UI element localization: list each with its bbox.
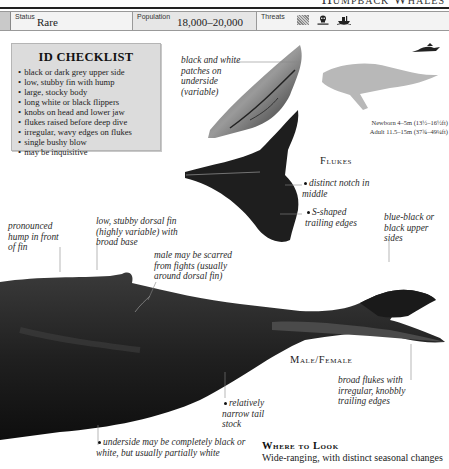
note-text: underside may be completely black or whi… <box>96 437 245 458</box>
id-checklist: ID CHECKLIST black or dark grey upper si… <box>11 43 161 151</box>
where-to-look-text: Wide-ranging, with distinct seasonal cha… <box>262 452 443 463</box>
checklist-item: irregular, wavy edges on flukes <box>18 127 154 137</box>
note-tail-stock: relatively narrow tail stock <box>222 398 274 430</box>
bullet-dot <box>307 211 310 214</box>
note-fluke-notch: distinct notch in middle <box>302 178 382 199</box>
checklist-item: large, stocky body <box>18 87 154 97</box>
note-text: distinct notch in middle <box>302 178 369 199</box>
bullet-dot <box>304 182 307 185</box>
checklist-item: flukes raised before deep dive <box>18 117 154 127</box>
note-text: blue-black or black upper sides <box>384 212 434 243</box>
note-dorsal: low, stubby dorsal fin (highly variable)… <box>96 216 178 248</box>
note-text: relatively narrow tail stock <box>222 398 264 429</box>
male-female-caption: Male/Female <box>290 354 352 365</box>
note-text: male may be scarred from fights (usually… <box>154 250 232 281</box>
checklist-item: low, stubby fin with hump <box>18 77 154 87</box>
note-text: low, stubby dorsal fin (highly variable)… <box>96 216 178 247</box>
checklist-item: long white or black flippers <box>18 97 154 107</box>
size-adult: Adult 11.5–15m (37¾–49¼ft) <box>340 127 448 136</box>
note-hump: pronounced hump in front of fin <box>8 221 68 253</box>
note-broad-flukes: broad flukes with irregular, knobbly tra… <box>338 375 418 407</box>
size-newborn: Newborn 4–5m (13½–16½ft) <box>340 118 448 127</box>
note-text: S-shaped trailing edges <box>305 207 357 228</box>
note-fluke-trailing: S-shaped trailing edges <box>305 207 373 228</box>
flukes-caption: Flukes <box>320 155 352 166</box>
note-fluke-underside: black and white patches on underside (va… <box>181 55 249 97</box>
bullet-dot <box>98 441 101 444</box>
checklist-item: single bushy blow <box>18 137 154 147</box>
note-text: broad flukes with irregular, knobbly tra… <box>338 375 405 406</box>
whale-silhouette <box>322 63 442 110</box>
note-text: pronounced hump in front of fin <box>8 221 59 252</box>
checklist-item: may be inquisitive <box>18 147 154 157</box>
note-text: black and white patches on underside (va… <box>181 55 240 97</box>
bullet-dot <box>224 402 227 405</box>
checklist-title: ID CHECKLIST <box>18 50 154 65</box>
checklist-item: knobs on head and lower jaw <box>18 107 154 117</box>
fluking-whale-icon <box>412 43 440 52</box>
where-to-look-title: Where to Look <box>262 440 339 451</box>
checklist-items: black or dark grey upper side low, stubb… <box>18 67 154 157</box>
note-upper-sides: blue-black or black upper sides <box>384 212 446 244</box>
note-underside: underside may be completely black or whi… <box>96 437 246 458</box>
checklist-item: black or dark grey upper side <box>18 67 154 77</box>
note-scars: male may be scarred from fights (usually… <box>154 250 246 282</box>
size-info: Newborn 4–5m (13½–16½ft) Adult 11.5–15m … <box>340 118 448 136</box>
